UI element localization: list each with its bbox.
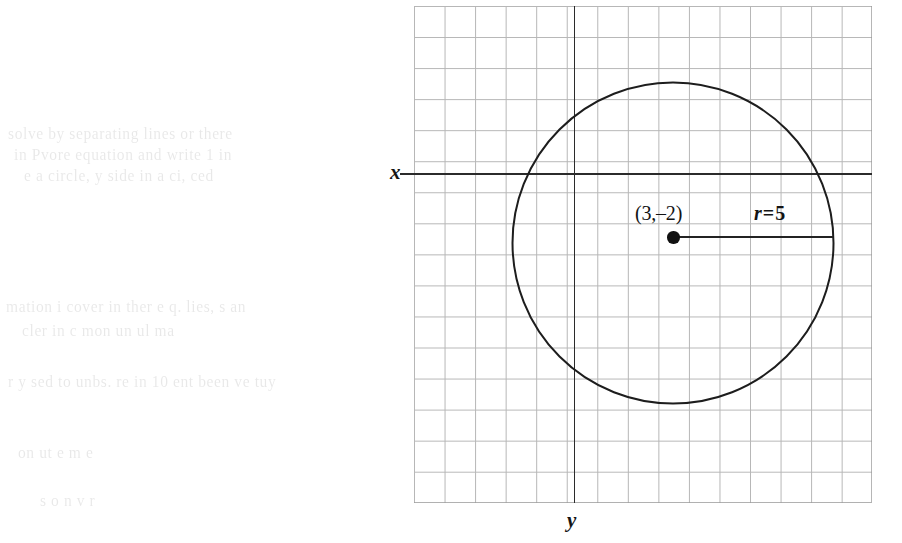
radius-value: 5	[775, 202, 785, 224]
circle-graphic	[400, 0, 886, 517]
radius-label: r=5	[754, 202, 785, 225]
radius-segment	[673, 236, 833, 238]
center-point-marker	[667, 231, 680, 244]
center-coordinate-label: (3,–2)	[635, 202, 682, 225]
ghost-text-line: on ut e m e	[18, 444, 93, 462]
ghost-text-line: in Pvore equation and write 1 in	[14, 146, 232, 164]
radius-variable: r	[754, 202, 762, 224]
ghost-text-line: s o n v r	[40, 492, 95, 510]
ghost-text-line: mation i cover in ther e q. lies, s an	[6, 298, 246, 316]
ghost-text-line: cler in c mon un ul ma	[22, 322, 175, 340]
ghost-text-line: solve by separating lines or there	[8, 125, 233, 143]
ghost-text-line: r y sed to unbs. re in 10 ent been ve tu…	[8, 373, 276, 391]
ghost-text-line: e a circle, y side in a ci, ced	[24, 167, 214, 185]
coordinate-graph-figure: (3,–2) r=5 x y	[414, 6, 872, 503]
radius-equals-sign: =	[762, 202, 775, 224]
x-axis-label: x	[390, 160, 401, 185]
scanned-page-canvas: solve by separating lines or therein Pvo…	[0, 0, 902, 543]
y-axis-label: y	[567, 508, 576, 533]
